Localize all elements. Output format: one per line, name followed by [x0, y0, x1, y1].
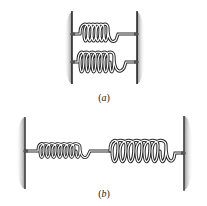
caption-b-text: (b)	[98, 188, 110, 199]
connector-nub	[24, 150, 28, 153]
connector-nub	[71, 61, 75, 64]
caption-a-text: (a)	[98, 92, 110, 103]
panel-a	[64, 8, 145, 88]
spring-diagram	[0, 0, 207, 206]
connector-nub	[134, 33, 138, 36]
caption-a: (a)	[98, 92, 110, 103]
connector-nub	[181, 152, 185, 155]
caption-b: (b)	[98, 188, 110, 199]
connector-nub	[134, 61, 138, 64]
panel-b	[16, 112, 193, 194]
connector-nub	[71, 33, 75, 36]
